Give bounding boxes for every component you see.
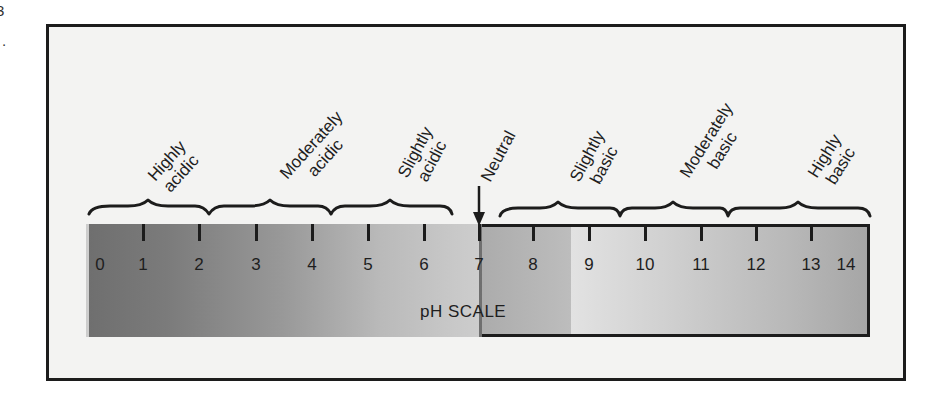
basic-brace — [500, 202, 870, 216]
tick-label-2: 2 — [194, 255, 203, 275]
tick-label-5: 5 — [363, 255, 372, 275]
tick-label-6: 6 — [419, 255, 428, 275]
tick-label-0: 0 — [95, 255, 104, 275]
tick-12 — [755, 224, 758, 241]
tick-5 — [367, 224, 370, 241]
tick-11 — [700, 224, 703, 241]
tick-label-14: 14 — [837, 255, 856, 275]
tick-6 — [423, 224, 426, 241]
tick-label-10: 10 — [636, 255, 655, 275]
tick-label-3: 3 — [251, 255, 260, 275]
tick-3 — [255, 224, 258, 241]
scale-title: pH SCALE — [420, 302, 506, 322]
tick-2 — [198, 224, 201, 241]
tick-4 — [311, 224, 314, 241]
tick-7 — [478, 224, 481, 241]
tick-label-4: 4 — [307, 255, 316, 275]
tick-label-7: 7 — [474, 255, 483, 275]
tick-label-13: 13 — [802, 255, 821, 275]
tick-10 — [644, 224, 647, 241]
tick-label-1: 1 — [138, 255, 147, 275]
tick-label-8: 8 — [528, 255, 537, 275]
neutral-arrow — [473, 186, 485, 226]
tick-label-11: 11 — [692, 255, 710, 275]
tick-label-12: 12 — [747, 255, 766, 275]
tick-label-9: 9 — [584, 255, 593, 275]
tick-13 — [810, 224, 813, 241]
tick-1 — [142, 224, 145, 241]
tick-8 — [532, 224, 535, 241]
acidic-brace — [89, 200, 452, 214]
tick-9 — [588, 224, 591, 241]
